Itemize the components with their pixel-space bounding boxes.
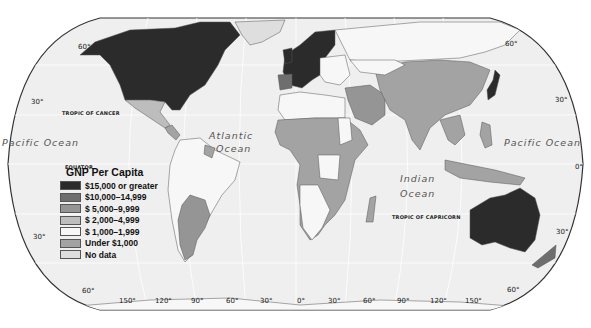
ocean-label-atlantic-2: Ocean — [216, 143, 251, 154]
lat-label-30s-left: 30° — [33, 233, 45, 241]
legend-swatch — [60, 193, 81, 202]
legend-title: GNP Per Capita — [66, 166, 158, 178]
lon-label: 60° — [363, 297, 375, 305]
tropic-of-cancer-label: TROPIC OF CANCER — [62, 110, 120, 116]
legend-label: No data — [85, 250, 116, 260]
legend-swatch — [60, 216, 81, 225]
legend-label: $15,000 or greater — [85, 181, 158, 191]
lon-label: 120° — [430, 297, 447, 305]
lon-label: 120° — [155, 297, 172, 305]
lon-label: 90° — [397, 297, 409, 305]
lat-label-30s-right: 30° — [556, 228, 568, 236]
lon-label: 0° — [297, 297, 305, 305]
legend-label: $ 2,000–4,999 — [85, 215, 139, 225]
lat-label-60n-left: 60° — [78, 43, 90, 51]
sudan — [338, 118, 352, 145]
legend: GNP Per Capita $15,000 or greater $10,00… — [60, 166, 158, 261]
ocean-label-indian-2: Ocean — [400, 188, 435, 199]
legend-swatch — [60, 250, 81, 259]
legend-label: Under $1,000 — [85, 238, 138, 248]
legend-swatch — [60, 227, 81, 236]
legend-item: $ 2,000–4,999 — [60, 215, 158, 227]
lat-label-60n-right: 60° — [505, 40, 517, 48]
lat-label-30n-right: 30° — [555, 96, 567, 104]
tropic-of-capricorn-label: TROPIC OF CAPRICORN — [392, 214, 461, 220]
lon-label: 30° — [328, 297, 340, 305]
lon-label: 30° — [260, 297, 272, 305]
lat-label-60s-left: 60° — [82, 287, 94, 295]
ocean-label-pacific-west: Pacific Ocean — [2, 137, 79, 148]
lon-label: 90° — [191, 297, 203, 305]
lon-label: 60° — [226, 297, 238, 305]
ocean-label-pacific-east: Pacific Ocean — [504, 137, 581, 148]
ocean-label-atlantic: Atlantic — [209, 130, 253, 141]
legend-label: $ 1,000–1,999 — [85, 227, 139, 237]
legend-label: $10,000–14,999 — [85, 192, 146, 202]
lat-label-0-right: 0° — [575, 163, 583, 171]
iberia — [278, 74, 292, 90]
legend-item: No data — [60, 249, 158, 261]
lon-label: 150° — [119, 297, 136, 305]
lon-label: 150° — [465, 297, 482, 305]
lat-label-60s-right: 60° — [507, 286, 519, 294]
legend-swatch — [60, 204, 81, 213]
legend-item: $ 5,000–9,999 — [60, 203, 158, 215]
congo — [318, 155, 340, 180]
legend-label: $ 5,000–9,999 — [85, 204, 139, 214]
legend-item: $ 1,000–1,999 — [60, 226, 158, 238]
lat-label-30n-left: 30° — [31, 98, 43, 106]
legend-item: $10,000–14,999 — [60, 192, 158, 204]
legend-item: Under $1,000 — [60, 238, 158, 250]
legend-item: $15,000 or greater — [60, 180, 158, 192]
legend-swatch — [60, 239, 81, 248]
ocean-label-indian: Indian — [400, 173, 435, 184]
legend-swatch — [60, 181, 81, 190]
